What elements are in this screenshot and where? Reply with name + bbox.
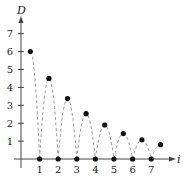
data-point [149,156,154,161]
y-tick-label: 6 [7,46,13,57]
bounce-arc [95,125,114,159]
x-tick-label: 4 [92,164,98,175]
data-point [74,156,79,161]
x-tick-label: 6 [129,164,135,175]
data-point [56,156,61,161]
x-axis-label: i [177,153,181,166]
y-tick-label: 2 [7,118,13,129]
x-ticks: 1234567 [36,164,154,175]
bounce-arc [40,79,59,160]
y-axis-label: D [16,4,26,17]
data-point [37,156,42,161]
data-point [111,156,116,161]
y-tick-label: 3 [7,100,13,111]
x-tick-label: 1 [36,164,42,175]
bouncing-ball-chart: D i 1234567 1234567 [0,0,186,179]
bounce-arc [114,134,133,159]
data-point [46,76,51,81]
x-tick-label: 7 [148,164,154,175]
bounce-arc [133,140,152,159]
y-tick-label: 5 [7,64,13,75]
bounce-arc [30,52,39,159]
y-tick-label: 1 [7,136,13,147]
y-axis-arrow-icon [19,16,24,23]
bounce-path [30,52,160,159]
bounce-arc [58,99,77,159]
data-points [28,49,163,162]
y-tick-label: 4 [7,82,13,93]
bounce-arc [77,114,96,159]
data-point [93,156,98,161]
data-point [121,131,126,136]
y-tick-label: 7 [7,28,13,39]
x-tick-label: 3 [74,164,80,175]
x-axis-arrow-icon [169,157,176,162]
data-point [65,96,70,101]
data-point [139,137,144,142]
x-tick-label: 2 [55,164,61,175]
data-point [84,111,89,116]
data-point [28,49,33,54]
x-tick-label: 5 [111,164,117,175]
data-point [158,142,163,147]
data-point [102,122,107,127]
data-point [130,156,135,161]
